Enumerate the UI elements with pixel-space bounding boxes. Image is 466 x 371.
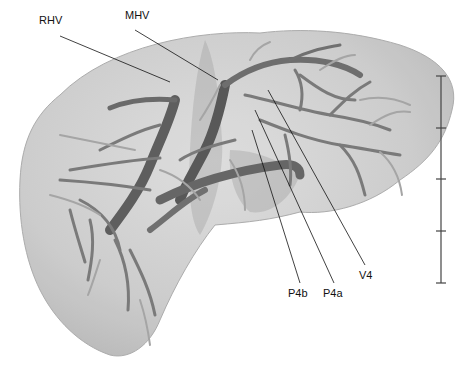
liver-figure — [0, 0, 466, 371]
label-v4: V4 — [359, 269, 372, 281]
label-mhv: MHV — [125, 9, 149, 21]
label-p4b: P4b — [288, 287, 308, 299]
label-rhv: RHV — [39, 14, 62, 26]
label-p4a: P4a — [323, 287, 343, 299]
